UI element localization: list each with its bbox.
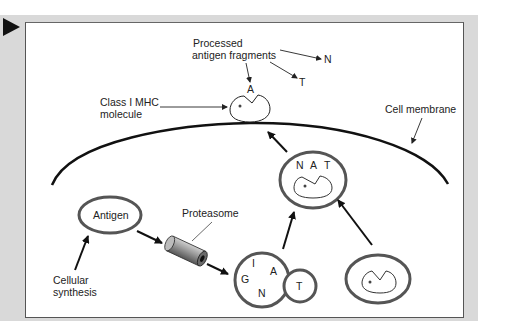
- arrow-synthesis-to-antigen: [75, 236, 88, 270]
- mhc-class-i-pathway-diagram: Processed antigen fragments N T A Class …: [0, 0, 506, 336]
- processed-label-line2: antigen fragments: [192, 49, 276, 61]
- empty-mhc-vesicle: [346, 255, 410, 303]
- arrow-peptides-to-vesicle: [283, 212, 294, 249]
- peptide-letter-a: A: [270, 265, 277, 277]
- peptide-letter-g: G: [241, 273, 249, 285]
- processed-label-line1: Processed: [193, 37, 243, 49]
- class-i-mhc-label-line1: Class I MHC: [100, 96, 159, 108]
- fragment-t: T: [299, 76, 306, 88]
- cell-membrane-label: Cell membrane: [385, 103, 456, 115]
- pointer-to-membrane: [412, 118, 422, 143]
- proteasome-cylinder: [163, 234, 210, 267]
- vesicle-letter-a: A: [310, 159, 317, 171]
- pointer-to-n: [280, 50, 321, 59]
- pointer-to-a: [246, 63, 250, 82]
- cellular-synthesis-line1: Cellular: [53, 274, 89, 286]
- peptide-letter-n: N: [258, 287, 266, 299]
- surface-mhc-molecule: [230, 95, 270, 122]
- cell-membrane-arc: [52, 123, 448, 185]
- fragment-n: N: [324, 53, 332, 65]
- arrow-vesicle-to-surface: [268, 132, 287, 152]
- pointer-to-proteasome: [192, 222, 212, 241]
- antigen-label: Antigen: [93, 209, 129, 221]
- fragment-a: A: [247, 83, 254, 95]
- arrow-proteasome-to-peptides: [207, 264, 228, 274]
- pointer-to-t: [270, 62, 297, 78]
- vesicle-letter-t: T: [324, 159, 331, 171]
- arrow-empty-vesicle-to-loaded: [338, 200, 372, 245]
- vesicle-letter-n: N: [296, 159, 304, 171]
- peptide-letter-i: I: [252, 257, 255, 269]
- cellular-synthesis-line2: synthesis: [53, 286, 97, 298]
- proteasome-label: Proteasome: [182, 207, 239, 219]
- peptide-letter-t: T: [296, 280, 303, 292]
- class-i-mhc-label-line2: molecule: [100, 108, 142, 120]
- arrow-antigen-to-proteasome: [137, 231, 162, 243]
